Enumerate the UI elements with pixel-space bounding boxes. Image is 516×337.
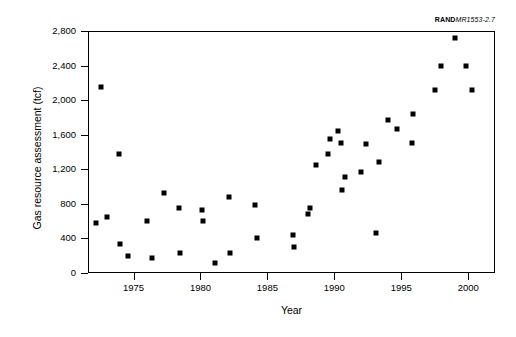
data-point (339, 140, 344, 145)
data-point (213, 261, 218, 266)
data-point (253, 203, 258, 208)
data-point (150, 256, 155, 261)
rand-logo-text: RAND (435, 16, 456, 23)
y-axis-tick-label: 2,400 (16, 61, 76, 71)
y-axis-tick (81, 31, 88, 32)
data-point (409, 141, 414, 146)
data-point (104, 215, 109, 220)
data-point (340, 188, 345, 193)
data-point (385, 117, 390, 122)
data-point (118, 241, 123, 246)
x-axis-tick (334, 273, 335, 280)
data-point (364, 142, 369, 147)
data-point (177, 206, 182, 211)
y-axis-tick-label: 400 (16, 233, 76, 243)
data-point (201, 219, 206, 224)
data-point (373, 231, 378, 236)
x-axis-tick-label: 2000 (443, 283, 493, 293)
x-axis-tick (134, 273, 135, 280)
x-axis-tick-label: 1990 (309, 283, 359, 293)
rand-source-credit: RANDMR1553-2.7 (435, 16, 495, 23)
data-point (116, 151, 121, 156)
x-axis-tick (401, 273, 402, 280)
y-axis-tick (81, 66, 88, 67)
data-point (452, 36, 457, 41)
y-axis-tick (81, 238, 88, 239)
data-point (126, 253, 131, 258)
y-axis-tick-label: 1,200 (16, 164, 76, 174)
y-axis-title: Gas resource assessment (tcf) (31, 43, 43, 273)
data-point (325, 152, 330, 157)
data-point (227, 251, 232, 256)
figure-container: RANDMR1553-2.7 04008001,2001,6002,0002,4… (0, 0, 516, 337)
x-axis-tick-label: 1975 (109, 283, 159, 293)
data-point (308, 206, 313, 211)
data-point (94, 220, 99, 225)
y-axis-tick-label: 2,000 (16, 95, 76, 105)
y-axis-tick (81, 100, 88, 101)
data-point (395, 127, 400, 132)
y-axis-tick-label: 1,600 (16, 130, 76, 140)
x-axis-tick (468, 273, 469, 280)
rand-report-id: MR1553-2.7 (455, 16, 495, 23)
data-point (336, 129, 341, 134)
y-axis-tick-label: 2,800 (16, 26, 76, 36)
x-axis-tick (267, 273, 268, 280)
data-point (305, 211, 310, 216)
y-axis-tick-label: 0 (16, 268, 76, 278)
data-point (359, 169, 364, 174)
y-axis-tick (81, 135, 88, 136)
data-point (343, 175, 348, 180)
data-point (144, 218, 149, 223)
x-axis-tick (200, 273, 201, 280)
data-point (328, 136, 333, 141)
data-point (178, 250, 183, 255)
data-point (470, 87, 475, 92)
data-point (432, 88, 437, 93)
data-point (254, 236, 259, 241)
data-point (292, 245, 297, 250)
y-axis-tick-label: 800 (16, 199, 76, 209)
data-point (439, 63, 444, 68)
x-axis-tick-label: 1995 (376, 283, 426, 293)
x-axis-tick-label: 1985 (242, 283, 292, 293)
y-axis-tick (81, 273, 88, 274)
y-axis-tick (81, 169, 88, 170)
data-point (290, 232, 295, 237)
data-point (376, 160, 381, 165)
data-point (226, 195, 231, 200)
x-axis-title: Year (88, 304, 495, 316)
data-point (463, 63, 468, 68)
data-point (411, 111, 416, 116)
scatter-plot-area (88, 31, 495, 273)
x-axis-tick-label: 1980 (175, 283, 225, 293)
data-point (313, 163, 318, 168)
y-axis-tick (81, 204, 88, 205)
data-point (199, 208, 204, 213)
data-point (99, 85, 104, 90)
data-point (162, 191, 167, 196)
